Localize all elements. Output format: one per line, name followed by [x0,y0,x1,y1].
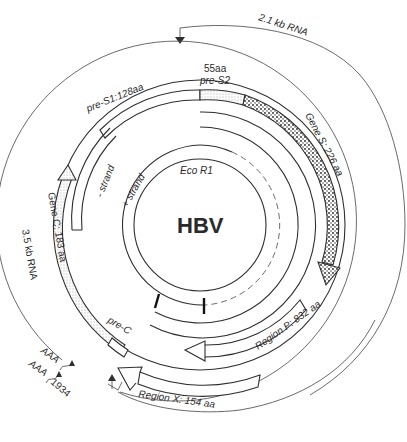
hbv-title: HBV [177,213,224,238]
gene-c-label: Gene C: 183 aa [46,191,69,263]
pre-s2-label: pre-S2 [199,75,230,86]
polya-label-2: AAA [26,357,50,378]
polya-markers: AAA AAA 1934 [26,344,122,399]
arrow-up-icon-2 [69,360,75,366]
arrow-down-icon [175,37,185,44]
hbv-core: HBV Eco R1 [134,159,266,291]
pre-s2-size-label: 55aa [204,63,227,74]
gene-c-band: Gene C: 183 aa pre-C [46,165,134,357]
strand-break-marker-1 [155,294,159,308]
arrow-up-icon [108,374,116,381]
eco-r1-label: Eco R1 [180,165,213,176]
plus-strand-label: + strand [119,172,147,209]
rna-2-1kb-label: 2.1 kb RNA [256,11,309,38]
region-x-band: Region X: 154 aa [118,367,260,410]
polya-label-1: AAA [38,344,62,365]
region-p-label: Region P: 832 aa [253,298,323,352]
gene-c-arrowhead [58,165,76,180]
position-1934-label: 1934 [49,376,73,399]
rna-3-5kb-label: 3.5 kb RNA [20,228,40,281]
hbv-genome-map: 2.1 kb RNA 3.5 kb RNA pre-S1:128aa 55aa … [0,0,407,442]
